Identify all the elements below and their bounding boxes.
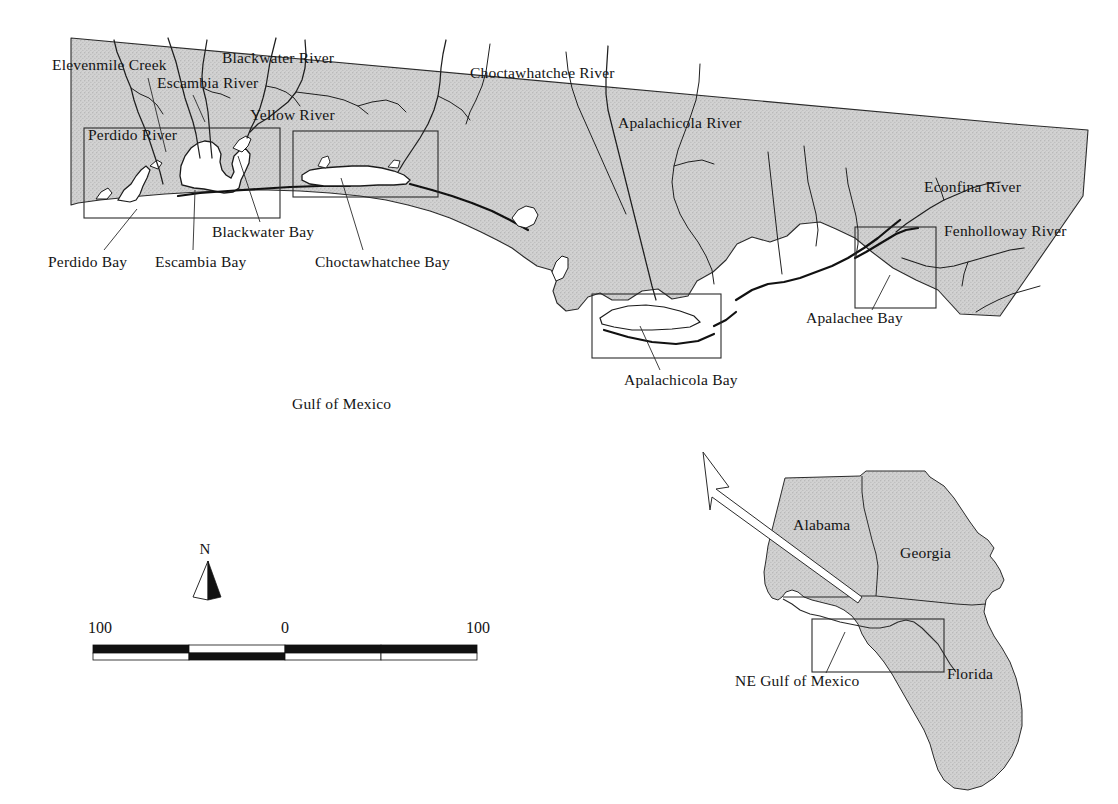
leader-apalachicola-bay [640, 326, 660, 370]
north-arrow-right-half [208, 561, 221, 600]
apalachicola-bay-water [600, 305, 700, 330]
st-george-island [604, 330, 714, 344]
north-arrow-left-half [193, 561, 208, 600]
scale-seg-bot-3 [285, 653, 381, 660]
scale-label-center: 0 [281, 619, 289, 636]
label-choctawhatchee-river: Choctawhatchee River [470, 64, 615, 81]
leader-escambia-bay [193, 190, 195, 250]
scale-label-right: 100 [466, 619, 490, 636]
label-escambia-river: Escambia River [157, 74, 259, 91]
north-arrow-label: N [200, 541, 211, 557]
scale-seg-top-1 [93, 645, 189, 653]
leader-perdido-bay [104, 209, 137, 250]
label-apalachee-bay: Apalachee Bay [806, 309, 903, 326]
locator-inset: Alabama Georgia Florida NE Gulf of Mexic… [703, 452, 1022, 790]
label-perdido-bay: Perdido Bay [48, 253, 127, 270]
label-elevenmile-creek: Elevenmile Creek [52, 56, 167, 73]
scale-bar: 100 0 100 km [88, 619, 490, 663]
scale-seg-top-4 [381, 645, 477, 653]
label-escambia-bay: Escambia Bay [155, 253, 247, 270]
label-yellow-river: Yellow River [250, 106, 335, 123]
scale-seg-bot-1 [93, 653, 189, 660]
scale-label-left: 100 [88, 619, 112, 636]
label-perdido-river: Perdido River [88, 126, 178, 143]
label-gulf-of-mexico: Gulf of Mexico [292, 395, 391, 412]
label-apalachicola-bay: Apalachicola Bay [624, 371, 738, 388]
label-econfina-river: Econfina River [924, 178, 1022, 195]
map-figure: Elevenmile Creek Blackwater River Escamb… [0, 0, 1118, 804]
leader-apalachee-bay [872, 275, 890, 310]
inset-label-alabama: Alabama [793, 516, 850, 533]
inset-label-georgia: Georgia [900, 544, 951, 561]
label-blackwater-river: Blackwater River [222, 49, 335, 66]
scale-seg-bot-2 [189, 653, 285, 660]
label-choctawhatchee-bay: Choctawhatchee Bay [315, 253, 450, 270]
inset-callout-label: NE Gulf of Mexico [735, 672, 859, 689]
label-fenholloway-river: Fenholloway River [944, 222, 1067, 239]
scale-seg-top-3 [285, 645, 381, 653]
north-arrow: N [193, 541, 221, 600]
map-canvas: Elevenmile Creek Blackwater River Escamb… [0, 0, 1118, 804]
inset-callout-leader [826, 632, 845, 673]
main-map-group: Elevenmile Creek Blackwater River Escamb… [48, 38, 1088, 412]
scale-seg-top-2 [189, 645, 285, 653]
label-apalachicola-river: Apalachicola River [618, 114, 742, 131]
dog-island [714, 312, 736, 326]
inset-label-florida: Florida [947, 665, 993, 682]
scale-seg-bot-4 [381, 653, 477, 660]
label-blackwater-bay: Blackwater Bay [212, 223, 314, 240]
